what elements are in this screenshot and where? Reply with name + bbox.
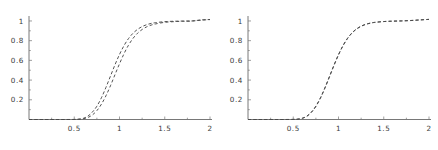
y-tick-label: 0.6 [11, 56, 24, 65]
x-tick-label: 2 [207, 124, 212, 133]
curves-right [248, 19, 429, 119]
chart-panel-right: 0.511.520.20.40.60.81 [219, 0, 438, 150]
y-tick-label: 0.8 [230, 36, 243, 45]
x-tick-label: 1.5 [158, 124, 171, 133]
x-tick-label: 0.5 [287, 124, 300, 133]
y-tick-label: 1 [238, 17, 243, 26]
axes-left [29, 16, 212, 120]
data-curve-curve-a [248, 19, 429, 119]
y-tick-label: 0.4 [230, 76, 243, 85]
chart-panel-left: 0.511.520.20.40.60.81 [0, 0, 219, 150]
axes-right [248, 16, 431, 120]
y-tick-label: 0.2 [11, 95, 24, 104]
curves-left [29, 19, 210, 119]
data-curve-curve-a [29, 19, 210, 119]
x-tick-label: 1 [336, 124, 341, 133]
data-curve-curve-b [29, 20, 210, 120]
y-tick-label: 0.6 [230, 56, 243, 65]
x-tick-label: 0.5 [68, 124, 81, 133]
two-panel-chart-figure: 0.511.520.20.40.60.81 0.511.520.20.40.60… [0, 0, 438, 150]
x-tick-label: 1 [117, 124, 122, 133]
ticks-left [29, 21, 210, 120]
plot-left-svg: 0.511.520.20.40.60.81 [0, 0, 219, 150]
x-tick-label: 1.5 [377, 124, 390, 133]
y-tick-label: 0.8 [11, 36, 24, 45]
plot-right-svg: 0.511.520.20.40.60.81 [219, 0, 438, 150]
y-tick-label: 0.4 [11, 76, 24, 85]
ticks-right [248, 21, 429, 120]
y-tick-label: 1 [19, 17, 24, 26]
y-tick-label: 0.2 [230, 95, 243, 104]
data-curve-curve-b [248, 19, 429, 119]
x-tick-label: 2 [426, 124, 431, 133]
tick-labels-left: 0.511.520.20.40.60.81 [11, 17, 213, 133]
